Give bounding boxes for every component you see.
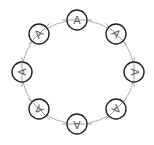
node-left: A (12, 57, 32, 87)
node-top-left: A (21, 16, 56, 51)
node-label: A (73, 118, 81, 131)
node-top: A (62, 10, 92, 30)
node-label: A (128, 68, 141, 76)
node-bottom-left: A (21, 91, 56, 126)
node-bottom-right: A (98, 91, 133, 126)
node-top-right: A (98, 16, 133, 51)
node-group: AAAAAAAA (12, 10, 144, 134)
node-label: A (16, 68, 29, 76)
node-right: A (124, 57, 144, 87)
ring-diagram: AAAAAAAA (0, 0, 154, 145)
node-bottom: A (62, 114, 92, 134)
node-label: A (73, 14, 81, 27)
